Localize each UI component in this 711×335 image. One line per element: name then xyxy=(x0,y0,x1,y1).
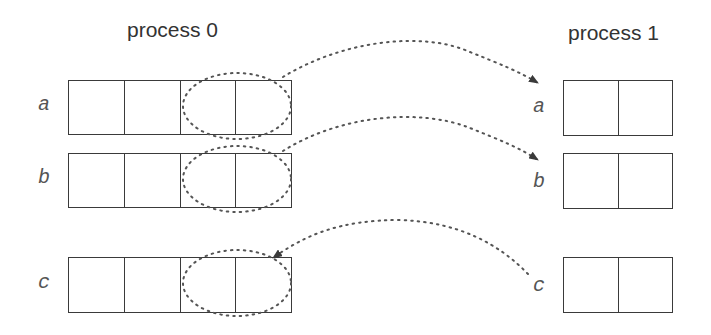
arrow-b-icon xyxy=(283,117,538,160)
arrow-c-icon xyxy=(273,220,528,274)
arrow-a-icon xyxy=(283,41,538,83)
p0-a-selection-ellipse xyxy=(183,73,291,139)
p0-b-selection-ellipse xyxy=(183,146,291,212)
selection-ellipses xyxy=(183,73,291,316)
arrows-overlay xyxy=(0,0,711,335)
p0-c-selection-ellipse xyxy=(183,250,291,316)
